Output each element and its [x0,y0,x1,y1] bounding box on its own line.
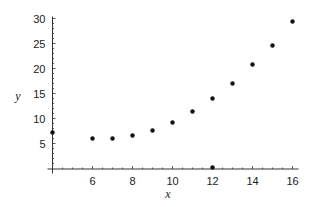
data-point [150,128,154,132]
y-tick-label: 30 [33,13,45,25]
y-tick-label: 15 [33,88,45,100]
data-point [210,96,214,100]
x-tick-label: 16 [286,175,298,187]
y-tick-label: 5 [39,138,45,150]
y-axis-label: y [14,89,21,103]
x-tick-label: 14 [246,175,258,187]
data-point [110,136,114,140]
data-point [170,120,174,124]
y-tick-label: 10 [33,113,45,125]
x-tick-label: 6 [89,175,95,187]
data-point [190,109,194,113]
x-tick-label: 10 [166,175,178,187]
data-point [210,165,214,169]
data-point [50,130,54,134]
data-points [50,19,294,169]
data-point [270,43,274,47]
data-point [290,19,294,23]
x-tick-label: 8 [129,175,135,187]
x-tick-label: 12 [206,175,218,187]
y-tick-label: 25 [33,38,45,50]
data-point [230,81,234,85]
axes: 681012141651015202530 [33,13,298,187]
data-point [90,136,94,140]
data-point [250,62,254,66]
data-point [130,133,134,137]
x-axis-label: x [164,187,171,201]
y-tick-label: 20 [33,63,45,75]
scatter-chart: 681012141651015202530 x y [0,0,311,207]
